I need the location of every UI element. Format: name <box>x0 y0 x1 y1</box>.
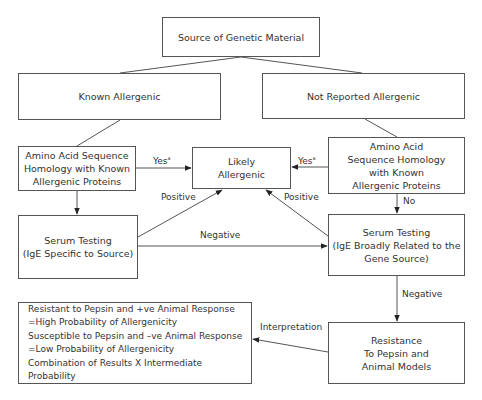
label-negative-right: Negative <box>402 289 442 299</box>
node-interpretation-line-1: Resistant to Pepsin and +ve Animal Respo… <box>28 303 235 317</box>
node-amino-left-line-2: Homology with Known <box>24 162 130 175</box>
node-amino-right-line-4: Allergenic Proteins <box>352 179 440 192</box>
node-likely-line-1: Likely <box>228 155 255 168</box>
label-yes-right-sup: a <box>313 155 316 161</box>
edge-notreported-amino-right <box>365 119 397 137</box>
node-resistance-line-2: To Pepsin and <box>364 347 429 360</box>
node-amino-left-line-1: Amino Acid Sequence <box>25 149 128 162</box>
node-serum-right-line-2: (IgE Broadly Related to the <box>333 239 461 252</box>
node-likely-line-2: Allergenic <box>218 168 265 181</box>
node-serum-left-line-1: Serum Testing <box>44 234 111 247</box>
node-known-allergenic: Known Allergenic <box>18 73 221 120</box>
node-not-reported-allergenic: Not Reported Allergenic <box>262 73 465 119</box>
node-source: Source of Genetic Material <box>162 17 320 57</box>
node-not-reported-allergenic-text: Not Reported Allergenic <box>307 90 420 103</box>
label-yes-left-text: Yes <box>153 156 168 166</box>
node-serum-right-line-1: Serum Testing <box>363 226 430 239</box>
node-interpretation-line-2: =High Probability of Allergenicity <box>28 316 177 330</box>
node-amino-right-line-1: Amino Acid <box>370 140 423 153</box>
edge-source-known <box>120 57 241 73</box>
node-serum-left: Serum Testing (IgE Specific to Source) <box>18 215 138 279</box>
node-amino-left: Amino Acid Sequence Homology with Known … <box>18 146 136 191</box>
node-serum-right-line-3: Gene Source) <box>364 252 428 265</box>
node-resistance-line-1: Resistance <box>371 334 422 347</box>
label-positive-left: Positive <box>161 192 196 202</box>
label-yes-left: Yesa <box>153 155 171 166</box>
label-interpretation: Interpretation <box>260 322 322 332</box>
label-yes-right-text: Yes <box>298 156 313 166</box>
node-likely-allergenic: Likely Allergenic <box>192 147 291 189</box>
label-positive-right: Positive <box>284 192 319 202</box>
node-resistance-line-3: Animal Models <box>362 360 431 373</box>
node-known-allergenic-text: Known Allergenic <box>79 90 161 103</box>
node-source-text: Source of Genetic Material <box>178 31 304 44</box>
node-interpretation: Resistant to Pepsin and +ve Animal Respo… <box>18 302 252 384</box>
node-interpretation-line-3: Susceptible to Pepsin and –ve Animal Res… <box>28 330 242 344</box>
label-yes-right: Yesa <box>298 155 316 166</box>
node-amino-right: Amino Acid Sequence Homology with Known … <box>328 137 465 194</box>
node-resistance: Resistance To Pepsin and Animal Models <box>328 322 465 384</box>
edge-resistance-interpretation <box>253 339 328 352</box>
node-serum-left-line-2: (IgE Specific to Source) <box>23 247 133 260</box>
node-serum-right: Serum Testing (IgE Broadly Related to th… <box>328 214 465 276</box>
node-interpretation-line-5: Combination of Results X Intermediate Pr… <box>28 357 251 384</box>
label-negative-mid: Negative <box>200 230 240 240</box>
node-amino-left-line-3: Allergenic Proteins <box>33 175 121 188</box>
edge-source-notreported <box>241 57 362 73</box>
node-interpretation-line-4: =Low Probability of Allergenicity <box>28 343 174 357</box>
node-amino-right-line-2: Sequence Homology <box>347 153 445 166</box>
label-no: No <box>403 196 415 206</box>
node-amino-right-line-3: with Known <box>369 166 424 179</box>
allergenicity-flowchart: Source of Genetic Material Known Allerge… <box>0 0 482 400</box>
label-yes-left-sup: a <box>168 155 171 161</box>
edge-known-amino-left <box>77 120 120 146</box>
